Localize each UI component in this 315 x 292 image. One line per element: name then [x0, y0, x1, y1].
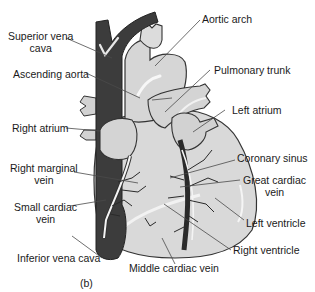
label-right-marginal-vein: Right marginal vein — [10, 162, 78, 186]
label-left-ventricle: Left ventricle — [246, 217, 306, 229]
label-middle-cardiac-vein: Middle cardiac vein — [129, 262, 219, 274]
panel-label: (b) — [80, 277, 93, 289]
label-line: vein — [14, 213, 77, 225]
heart-diagram: Superior vena cava Ascending aorta Right… — [0, 0, 315, 292]
label-ascending-aorta: Ascending aorta — [13, 68, 89, 80]
label-inferior-vena-cava: Inferior vena cava — [17, 252, 100, 264]
label-line: cava — [8, 42, 73, 54]
pulmonary-veins-right-lower — [80, 130, 96, 140]
label-right-ventricle: Right ventricle — [233, 244, 300, 256]
label-small-cardiac-vein: Small cardiac vein — [14, 201, 77, 225]
label-aortic-arch: Aortic arch — [202, 13, 252, 25]
label-line: Great cardiac — [243, 174, 306, 186]
label-great-cardiac-vein: Great cardiac vein — [243, 174, 306, 198]
label-coronary-sinus: Coronary sinus — [237, 152, 308, 164]
label-line: Small cardiac — [14, 201, 77, 213]
label-line: vein — [243, 186, 306, 198]
label-pulmonary-trunk: Pulmonary trunk — [214, 64, 290, 76]
right-atrium — [100, 118, 137, 159]
label-line: vein — [10, 174, 78, 186]
label-superior-vena-cava: Superior vena cava — [8, 30, 73, 54]
pulmonary-veins-right — [80, 96, 96, 116]
label-left-atrium: Left atrium — [232, 104, 282, 116]
label-line: Right marginal — [10, 162, 78, 174]
label-line: Superior vena — [8, 30, 73, 42]
label-right-atrium: Right atrium — [12, 122, 69, 134]
